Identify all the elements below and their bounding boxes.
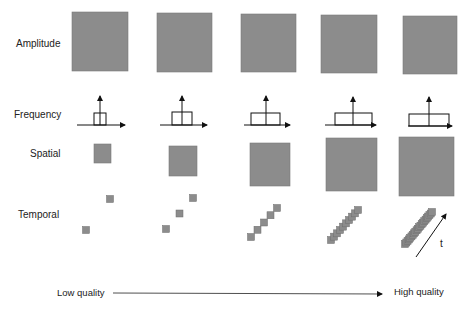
frequency-row	[77, 96, 452, 126]
time-label: t	[440, 238, 443, 249]
frequency-plot-2	[160, 96, 207, 125]
low-quality-label: Low quality	[57, 287, 105, 298]
amplitude-square-4	[321, 15, 377, 73]
temporal-sequence-5	[402, 209, 436, 248]
row-label-spatial: Spatial	[30, 148, 61, 159]
amplitude-square-3	[241, 14, 296, 72]
quality-dimensions-diagram: Amplitude Frequency Spatial Temporal t L…	[0, 0, 468, 312]
frame-square	[83, 227, 90, 234]
temporal-sequence-2	[163, 195, 197, 233]
frequency-plot-5	[408, 97, 452, 126]
temporal-sequence-3	[248, 205, 281, 241]
frame-square	[163, 226, 170, 233]
frame-square	[267, 212, 274, 219]
spatial-square-4	[326, 138, 377, 191]
frame-square	[261, 219, 268, 226]
temporal-sequence-1	[83, 196, 114, 234]
amplitude-square-5	[403, 16, 457, 74]
spatial-row	[94, 137, 454, 196]
row-label-frequency: Frequency	[14, 109, 61, 120]
frame-square	[107, 196, 114, 203]
frame-square	[190, 195, 197, 202]
frame-square	[176, 210, 183, 217]
row-label-amplitude: Amplitude	[16, 38, 60, 49]
spatial-square-3	[250, 143, 290, 186]
frame-square	[248, 234, 255, 241]
high-quality-label: High quality	[394, 286, 444, 297]
amplitude-square-2	[157, 13, 212, 72]
frequency-plot-3	[244, 96, 290, 125]
spatial-square-5	[399, 137, 454, 196]
temporal-sequence-4	[328, 207, 362, 244]
amplitude-row	[72, 12, 457, 74]
frequency-plot-1	[77, 96, 125, 125]
frame-square	[429, 209, 436, 216]
spatial-square-1	[94, 144, 111, 163]
spatial-square-2	[169, 146, 197, 176]
row-label-temporal: Temporal	[18, 209, 59, 220]
quality-arrow	[113, 293, 382, 294]
diagram-canvas	[0, 0, 468, 312]
frequency-plot-4	[325, 97, 376, 125]
temporal-row	[83, 195, 436, 248]
frame-square	[274, 205, 281, 212]
amplitude-square-1	[72, 12, 128, 71]
frame-square	[254, 226, 261, 233]
frame-square	[355, 207, 362, 214]
